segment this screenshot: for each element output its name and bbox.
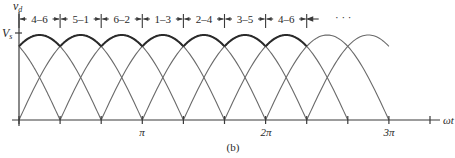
arrowhead-icon [226, 17, 231, 21]
arrowhead-icon [267, 17, 272, 21]
rectifier-waveform-diagram: vd Vs ωt π 2π 3π (b) 4–65–16–21–32–43–54… [0, 0, 455, 158]
line-voltage-arc [19, 46, 60, 120]
output-segment [101, 35, 142, 46]
arrowhead-icon [301, 17, 306, 21]
arrowhead-icon [95, 17, 100, 21]
output-segment [183, 35, 224, 46]
peak-label: Vs [2, 26, 12, 41]
arrowhead-icon [102, 17, 107, 21]
arrowhead-icon [219, 17, 224, 21]
line-voltage-arcs [19, 35, 389, 120]
interval-label: 3–5 [237, 13, 254, 25]
arrowhead-icon [177, 17, 182, 21]
interval-labels: 4–65–16–21–32–43–54–6 [31, 13, 295, 25]
output-segment [142, 35, 183, 46]
interval-label: 4–6 [31, 13, 48, 25]
line-voltage-arc [307, 35, 389, 120]
arrowhead-icon [20, 17, 25, 21]
output-segment [60, 35, 101, 46]
y-axis-label: vd [13, 0, 23, 14]
output-segment [225, 35, 266, 46]
interval-label: 1–3 [155, 13, 172, 25]
figure-caption: (b) [227, 141, 240, 154]
x-tick-label-pi: π [139, 126, 145, 138]
continuation-dots: · · · [335, 11, 352, 23]
interval-label: 6–2 [114, 13, 131, 25]
arrowhead-icon [184, 17, 189, 21]
x-tick-label-3pi: 3π [382, 126, 395, 138]
x-tick-label-2pi: 2π [260, 126, 272, 138]
line-voltage-arc [19, 35, 101, 120]
interval-label: 4–6 [278, 13, 295, 25]
arrowhead-icon [260, 17, 265, 21]
x-axis-label: ωt [443, 114, 455, 126]
output-segment [266, 35, 307, 46]
arrowhead-icon [143, 17, 148, 21]
interval-label: 2–4 [196, 13, 213, 25]
interval-label: 5–1 [72, 13, 89, 25]
arrowhead-icon [136, 17, 141, 21]
arrowhead-icon [54, 17, 59, 21]
output-voltage-envelope [19, 35, 307, 46]
arrowhead-icon [61, 17, 66, 21]
output-segment [19, 35, 60, 46]
